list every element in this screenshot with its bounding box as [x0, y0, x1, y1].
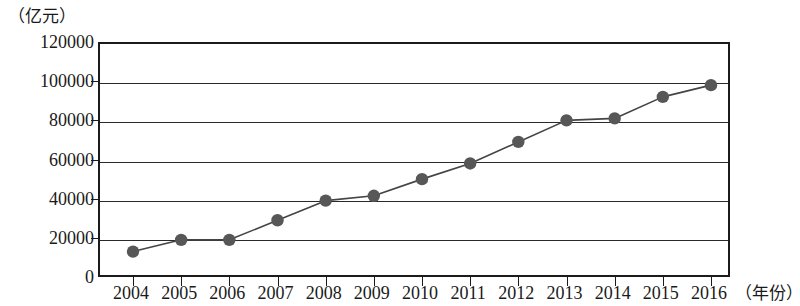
- x-tick-label: 2016: [691, 283, 727, 303]
- x-tick-label: 2005: [161, 283, 197, 303]
- data-point-marker: 2010: 51000: [416, 173, 428, 185]
- data-point-marker: 2016: 99000: [705, 79, 717, 91]
- x-tick-label: 2012: [498, 283, 534, 303]
- data-point-marker: 2008: 40000: [319, 194, 331, 206]
- x-tick-label: 2015: [643, 283, 679, 303]
- data-point-marker: 2015: 93000: [657, 91, 669, 103]
- series-polyline: [133, 85, 711, 251]
- data-point-marker: 2007: 30000: [271, 214, 283, 226]
- x-tick-label: 2008: [306, 283, 342, 303]
- y-tick-mark: [91, 160, 98, 161]
- y-tick-label: 120000: [40, 33, 94, 51]
- line-chart: （亿元） 020000400006000080000100000120000 2…: [0, 0, 800, 306]
- y-tick-label: 0: [85, 268, 94, 286]
- data-point-marker: 2009: 42500: [368, 190, 380, 202]
- y-tick-mark: [91, 81, 98, 82]
- y-tick-mark: [91, 238, 98, 239]
- x-tick-label: 2010: [402, 283, 438, 303]
- data-point-marker: 2012: 70000: [512, 136, 524, 148]
- y-tick-label: 60000: [49, 151, 94, 169]
- data-point-marker: 2011: 59000: [464, 157, 476, 169]
- x-tick-label: 2009: [354, 283, 390, 303]
- y-axis-unit-label: （亿元）: [8, 2, 76, 27]
- y-tick-mark: [91, 199, 98, 200]
- plot-area: 2004: 140002005: 200002006: 200002007: 3…: [98, 42, 730, 277]
- x-tick-label: 2014: [595, 283, 631, 303]
- x-tick-label: 2004: [113, 283, 149, 303]
- data-point-marker: 2004: 14000: [127, 245, 139, 257]
- data-point-marker: 2006: 20000: [223, 234, 235, 246]
- x-axis-title: （年份）: [735, 283, 800, 303]
- data-point-marker: 2013: 81000: [560, 114, 572, 126]
- y-tick-label: 20000: [49, 229, 94, 247]
- x-tick-label: 2013: [547, 283, 583, 303]
- y-tick-label: 40000: [49, 190, 94, 208]
- y-tick-mark: [91, 120, 98, 121]
- x-tick-label: 2011: [450, 283, 485, 303]
- y-tick-label: 80000: [49, 111, 94, 129]
- series-line: 2004: 140002005: 200002006: 200002007: 3…: [100, 44, 732, 279]
- data-point-marker: 2005: 20000: [175, 234, 187, 246]
- x-tick-label: 2007: [258, 283, 294, 303]
- y-tick-label: 100000: [40, 72, 94, 90]
- x-tick-label: 2006: [209, 283, 245, 303]
- data-point-marker: 2014: 82000: [608, 112, 620, 124]
